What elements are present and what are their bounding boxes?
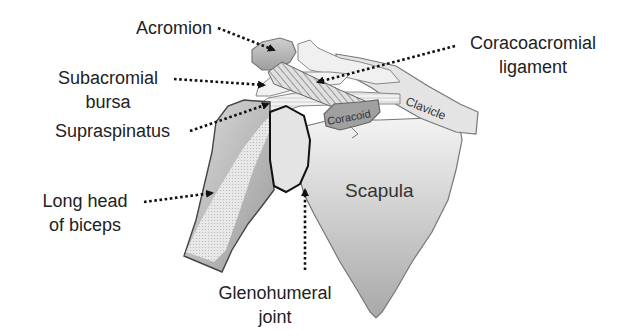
label-coracoacromial-1: Coracoacromial bbox=[458, 32, 608, 54]
label-long-head-1: Long head bbox=[30, 190, 140, 212]
label-coracoacromial-2: ligament bbox=[458, 56, 608, 78]
label-acromion: Acromion bbox=[120, 17, 212, 39]
label-glenohumeral-1: Glenohumeral bbox=[210, 282, 340, 304]
label-subacromial-bursa-1: Subacromial bbox=[44, 67, 172, 89]
label-glenohumeral-2: joint bbox=[210, 306, 340, 328]
scapula-label: Scapula bbox=[345, 180, 414, 201]
label-subacromial-bursa-2: bursa bbox=[44, 91, 172, 113]
label-long-head-2: of biceps bbox=[30, 214, 140, 236]
label-supraspinatus: Supraspinatus bbox=[55, 120, 170, 142]
